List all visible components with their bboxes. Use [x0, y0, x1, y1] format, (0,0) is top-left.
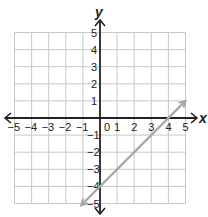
x-tick-label: −3: [42, 121, 55, 133]
y-tick-label: −3: [87, 163, 100, 175]
y-tick-label: 2: [91, 78, 97, 90]
y-tick-label: 1: [91, 95, 97, 107]
x-tick-label: 3: [148, 121, 154, 133]
coordinate-plane: xy −5−4−3−2−101234554321−1−2−3−4−5: [0, 0, 208, 217]
y-tick-label: −4: [87, 180, 100, 192]
x-tick-label: 5: [183, 121, 189, 133]
y-tick-label: −5: [87, 198, 100, 210]
x-tick-label: −5: [8, 121, 21, 133]
y-axis-label: y: [94, 4, 104, 20]
x-axis-label: x: [198, 110, 208, 126]
x-tick-label: 2: [131, 121, 137, 133]
x-tick-label: 4: [165, 121, 171, 133]
y-tick-label: 4: [91, 44, 97, 56]
y-tick-label: −2: [87, 146, 100, 158]
x-tick-label: 1: [114, 121, 120, 133]
y-tick-label: 5: [91, 27, 97, 39]
x-tick-label: 0: [104, 121, 110, 133]
y-tick-label: 3: [91, 61, 97, 73]
x-tick-label: −4: [25, 121, 38, 133]
x-tick-label: −2: [59, 121, 72, 133]
y-tick-label: −1: [87, 129, 100, 141]
